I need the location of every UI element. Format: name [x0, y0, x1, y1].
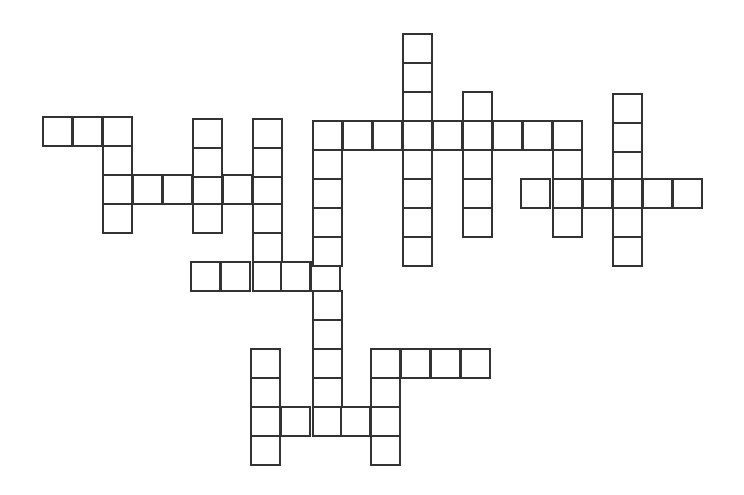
- crossword-cell[interactable]: [552, 178, 583, 209]
- crossword-cell[interactable]: [250, 435, 281, 466]
- crossword-cell[interactable]: [252, 174, 283, 205]
- crossword-cell[interactable]: [552, 120, 583, 151]
- crossword-cell[interactable]: [102, 203, 133, 234]
- crossword-cell[interactable]: [522, 120, 553, 151]
- crossword-cell[interactable]: [402, 33, 433, 64]
- crossword-cell[interactable]: [462, 149, 493, 180]
- crossword-cell[interactable]: [252, 261, 283, 292]
- crossword-cell[interactable]: [72, 116, 103, 147]
- crossword-cell[interactable]: [552, 149, 583, 180]
- crossword-cell[interactable]: [312, 348, 343, 379]
- crossword-cell[interactable]: [312, 207, 343, 238]
- crossword-cell[interactable]: [612, 122, 643, 153]
- crossword-cell[interactable]: [672, 178, 703, 209]
- crossword-cell[interactable]: [462, 178, 493, 209]
- crossword-cell[interactable]: [402, 178, 433, 209]
- crossword-cell[interactable]: [372, 120, 403, 151]
- crossword-cell[interactable]: [462, 91, 493, 122]
- crossword-cell[interactable]: [162, 174, 193, 205]
- crossword-cell[interactable]: [252, 147, 283, 178]
- crossword-cell[interactable]: [492, 120, 523, 151]
- crossword-cell[interactable]: [370, 406, 401, 437]
- crossword-cell[interactable]: [312, 377, 343, 408]
- crossword-cell[interactable]: [642, 178, 673, 209]
- crossword-cell[interactable]: [402, 62, 433, 93]
- crossword-cell[interactable]: [250, 377, 281, 408]
- crossword-cell[interactable]: [430, 348, 461, 379]
- crossword-cell[interactable]: [342, 120, 373, 151]
- crossword-cell[interactable]: [370, 377, 401, 408]
- crossword-cell[interactable]: [312, 406, 343, 437]
- crossword-cell[interactable]: [462, 120, 493, 151]
- crossword-cell[interactable]: [132, 174, 163, 205]
- crossword-cell[interactable]: [312, 236, 343, 267]
- crossword-cell[interactable]: [520, 178, 551, 209]
- crossword-cell[interactable]: [312, 178, 343, 209]
- crossword-cell[interactable]: [582, 178, 613, 209]
- crossword-cell[interactable]: [612, 178, 643, 209]
- crossword-cell[interactable]: [340, 406, 371, 437]
- crossword-grid: [0, 0, 744, 495]
- crossword-cell[interactable]: [432, 120, 463, 151]
- crossword-cell[interactable]: [312, 120, 343, 151]
- crossword-cell[interactable]: [552, 207, 583, 238]
- crossword-cell[interactable]: [192, 174, 223, 205]
- crossword-cell[interactable]: [102, 116, 133, 147]
- crossword-cell[interactable]: [370, 348, 401, 379]
- crossword-cell[interactable]: [312, 290, 343, 321]
- crossword-cell[interactable]: [252, 203, 283, 234]
- crossword-cell[interactable]: [190, 261, 221, 292]
- crossword-cell[interactable]: [42, 116, 73, 147]
- crossword-cell[interactable]: [612, 236, 643, 267]
- crossword-cell[interactable]: [612, 93, 643, 124]
- crossword-cell[interactable]: [102, 174, 133, 205]
- crossword-cell[interactable]: [402, 91, 433, 122]
- crossword-cell[interactable]: [312, 149, 343, 180]
- crossword-cell[interactable]: [612, 207, 643, 238]
- crossword-cell[interactable]: [192, 118, 223, 149]
- crossword-cell[interactable]: [192, 147, 223, 178]
- crossword-cell[interactable]: [402, 207, 433, 238]
- crossword-cell[interactable]: [192, 203, 223, 234]
- crossword-cell[interactable]: [400, 348, 431, 379]
- crossword-cell[interactable]: [252, 232, 283, 263]
- crossword-cell[interactable]: [312, 319, 343, 350]
- crossword-cell[interactable]: [280, 261, 311, 292]
- crossword-cell[interactable]: [280, 406, 311, 437]
- crossword-cell[interactable]: [402, 236, 433, 267]
- crossword-cell[interactable]: [252, 118, 283, 149]
- crossword-cell[interactable]: [460, 348, 491, 379]
- crossword-cell[interactable]: [250, 406, 281, 437]
- crossword-cell[interactable]: [250, 348, 281, 379]
- crossword-cell[interactable]: [402, 149, 433, 180]
- crossword-cell[interactable]: [102, 145, 133, 176]
- crossword-cell[interactable]: [370, 435, 401, 466]
- crossword-cell[interactable]: [462, 207, 493, 238]
- crossword-cell[interactable]: [402, 120, 433, 151]
- crossword-cell[interactable]: [220, 261, 251, 292]
- crossword-cell[interactable]: [222, 174, 253, 205]
